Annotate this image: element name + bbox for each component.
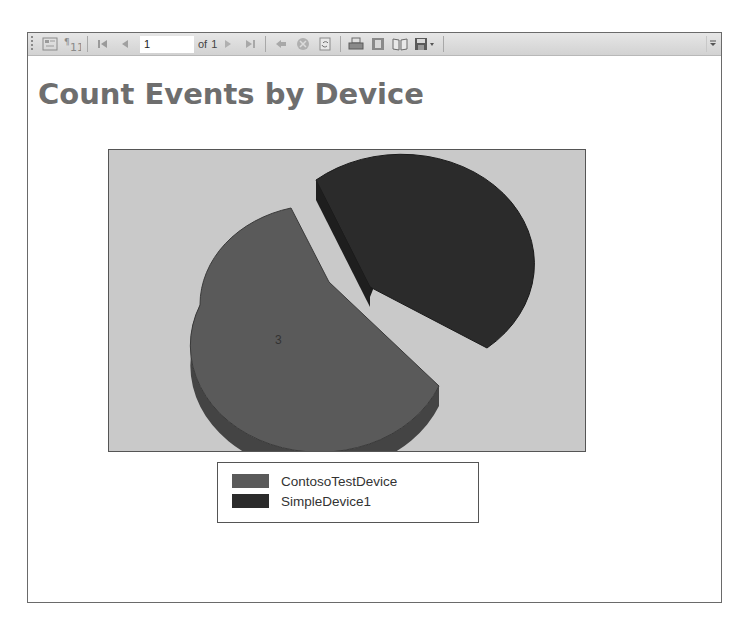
document-map-icon[interactable]	[41, 35, 59, 53]
print-layout-icon[interactable]	[369, 35, 387, 53]
chart-legend: ContosoTestDevice SimpleDevice1	[217, 462, 479, 523]
previous-page-icon[interactable]	[116, 35, 134, 53]
legend-item: ContosoTestDevice	[232, 471, 478, 491]
legend-item: SimpleDevice1	[232, 491, 478, 511]
last-page-icon[interactable]	[241, 35, 259, 53]
toolbar-grip[interactable]	[31, 36, 33, 52]
toolbar-separator	[87, 36, 88, 52]
of-label: of	[198, 38, 207, 50]
toolbar-separator	[265, 36, 266, 52]
report-title: Count Events by Device	[38, 77, 424, 111]
report-viewer: ¶11 of 1	[27, 32, 722, 603]
page-setup-icon[interactable]	[391, 35, 409, 53]
slice-label-contoso: 3	[275, 333, 282, 347]
toolbar-separator	[443, 36, 444, 52]
legend-swatch	[232, 494, 269, 508]
svg-text:¶: ¶	[64, 37, 70, 47]
back-icon[interactable]	[272, 35, 290, 53]
toolbar-separator	[340, 36, 341, 52]
parameters-icon[interactable]: ¶11	[63, 35, 81, 53]
pie-chart: 3	[109, 150, 585, 451]
print-icon[interactable]	[347, 35, 365, 53]
stop-icon[interactable]	[294, 35, 312, 53]
overflow-icon[interactable]	[706, 36, 719, 52]
chart-area: 3	[108, 149, 586, 452]
report-toolbar: ¶11 of 1	[28, 33, 721, 56]
page-number-input[interactable]	[140, 36, 194, 53]
export-icon[interactable]	[413, 35, 437, 53]
legend-label: SimpleDevice1	[281, 494, 371, 509]
total-pages: 1	[211, 38, 217, 50]
next-page-icon[interactable]	[219, 35, 237, 53]
legend-label: ContosoTestDevice	[281, 474, 397, 489]
refresh-icon[interactable]	[316, 35, 334, 53]
svg-text:11: 11	[70, 41, 81, 52]
first-page-icon[interactable]	[94, 35, 112, 53]
legend-swatch	[232, 474, 269, 488]
